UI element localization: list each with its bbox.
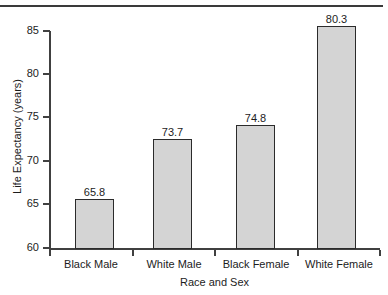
x-tick-mark <box>49 250 51 256</box>
bar-value-white-female: 80.3 <box>308 13 365 25</box>
plot-area: 85 80 75 70 65 60 65.8 73.7 74.8 80.3 Bl… <box>0 0 388 295</box>
x-category-label-white-male: White Male <box>133 258 215 271</box>
bar-black-male <box>75 199 114 249</box>
y-tick-mark <box>43 160 50 162</box>
bar-white-male <box>153 139 192 249</box>
bar-black-female <box>236 125 275 249</box>
y-tick-mark <box>43 30 50 32</box>
x-tick-mark <box>132 250 134 256</box>
x-category-label-black-male: Black Male <box>50 258 132 271</box>
y-axis-line <box>49 31 51 250</box>
x-tick-mark <box>379 250 381 256</box>
life-expectancy-bar-chart: 85 80 75 70 65 60 65.8 73.7 74.8 80.3 Bl… <box>0 0 388 295</box>
bar-value-white-male: 73.7 <box>144 126 201 138</box>
x-tick-mark <box>214 250 216 256</box>
y-tick-mark <box>43 73 50 75</box>
x-axis-title: Race and Sex <box>49 276 380 289</box>
y-tick-label-60: 60 <box>11 242 39 253</box>
x-tick-mark <box>297 250 299 256</box>
y-tick-mark <box>43 247 50 249</box>
bar-value-black-female: 74.8 <box>227 112 284 124</box>
bar-white-female <box>317 26 356 249</box>
x-category-label-black-female: Black Female <box>215 258 297 271</box>
y-tick-mark <box>43 116 50 118</box>
y-axis-title: Life Expectancy (years) <box>11 57 24 217</box>
x-category-label-white-female: White Female <box>298 258 380 271</box>
bar-value-black-male: 65.8 <box>66 186 123 198</box>
y-tick-mark <box>43 203 50 205</box>
y-tick-label-85: 85 <box>11 25 39 36</box>
